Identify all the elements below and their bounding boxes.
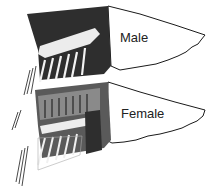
female-label: Female [121, 106, 164, 121]
wings-illustration [0, 0, 212, 190]
wing-comparison-diagram: Male Female [0, 0, 212, 190]
male-wing [24, 6, 205, 95]
female-wing [12, 82, 205, 186]
male-label: Male [120, 30, 148, 45]
